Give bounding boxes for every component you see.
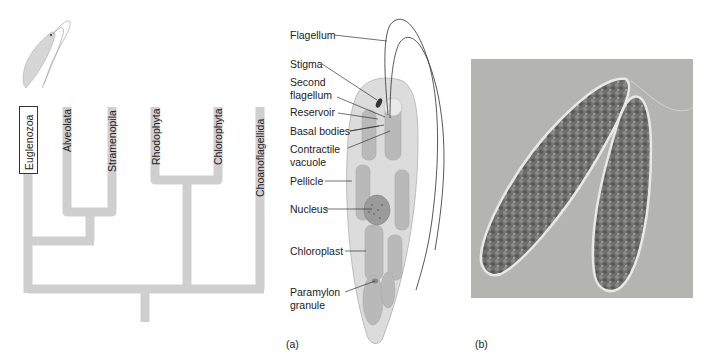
panel-b-label: (b) bbox=[475, 338, 488, 350]
callout-paramylon-granule: Paramylon granule bbox=[290, 286, 340, 312]
callout-pellicle: Pellicle bbox=[290, 175, 323, 188]
micrograph-cells-image bbox=[471, 59, 693, 298]
callout-reservoir: Reservoir bbox=[290, 106, 335, 119]
callout-nucleus: Nucleus bbox=[290, 203, 328, 216]
euglena-micrograph bbox=[471, 59, 693, 298]
callout-basal-bodies: Basal bodies bbox=[290, 125, 350, 138]
callout-contractile-vacuole: Contractile vacuole bbox=[290, 143, 340, 169]
callout-second-flagellum: Second flagellum bbox=[290, 76, 332, 102]
callout-flagellum: Flagellum bbox=[290, 29, 336, 42]
callout-chloroplast: Chloroplast bbox=[290, 245, 343, 258]
callout-stigma: Stigma bbox=[290, 58, 323, 71]
panel-a-label: (a) bbox=[286, 338, 299, 350]
